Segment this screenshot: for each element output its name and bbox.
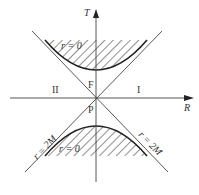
region-ii-label: II	[52, 84, 59, 95]
r-axis-label: R	[183, 102, 190, 113]
t-axis-label: T	[84, 7, 91, 18]
upper-r0-label: r = 0	[61, 40, 82, 51]
lower-r0-label: r = 0	[59, 143, 80, 154]
region-p-label: P	[88, 104, 94, 115]
r-axis-arrow-icon	[184, 95, 194, 101]
kruskal-diagram: T R r = 0 r = 0 II I F P r = 2M r = 2M	[0, 0, 199, 195]
t-axis-arrow-icon	[93, 9, 99, 18]
region-f-label: F	[88, 79, 94, 90]
region-i-label: I	[137, 84, 140, 95]
